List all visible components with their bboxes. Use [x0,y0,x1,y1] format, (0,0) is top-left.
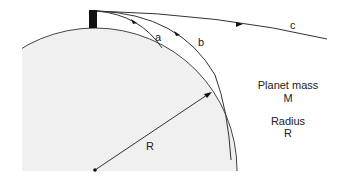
label-a: a [155,31,161,43]
label-c: c [290,19,296,31]
label-b: b [198,36,204,48]
planet-surface [0,28,237,183]
mass-title: Planet mass [248,79,328,91]
radius-label: R [146,140,154,152]
radius-symbol: R [248,127,328,139]
radius-title: Radius [248,115,328,127]
planet-center [93,168,97,172]
mass-symbol: M [248,92,328,104]
launch-tower [89,10,97,28]
